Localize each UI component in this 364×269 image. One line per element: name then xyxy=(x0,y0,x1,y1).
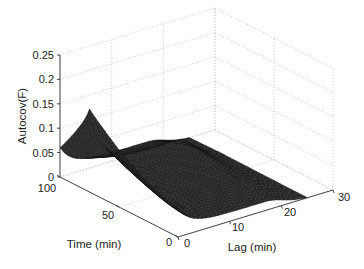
time-tick-label: 50 xyxy=(102,209,114,221)
time-tick-label: 100 xyxy=(38,182,56,194)
time-axis-label: Time (min) xyxy=(67,238,122,250)
z-tick-label: 0.1 xyxy=(39,122,54,134)
z-tick-label: 0.2 xyxy=(39,73,54,85)
lag-tick-label: 20 xyxy=(284,206,296,218)
z-axis-label: Autocov(F) xyxy=(16,88,28,144)
lag-axis-label: Lag (min) xyxy=(228,241,277,253)
z-tick-label: 0.15 xyxy=(33,98,54,110)
lag-tick-label: 30 xyxy=(338,191,350,203)
autocov-surface-chart: 0 0.05 0.1 0.15 0.2 0.25 100 50 0 0 10 2… xyxy=(0,0,364,269)
lag-tick-label: 10 xyxy=(232,221,244,233)
time-tick-label: 0 xyxy=(166,236,172,248)
z-tick-label: 0.05 xyxy=(33,147,54,159)
lag-tick-label: 0 xyxy=(184,237,190,249)
surface-plot xyxy=(60,109,307,219)
z-tick-label: 0.25 xyxy=(33,49,54,61)
